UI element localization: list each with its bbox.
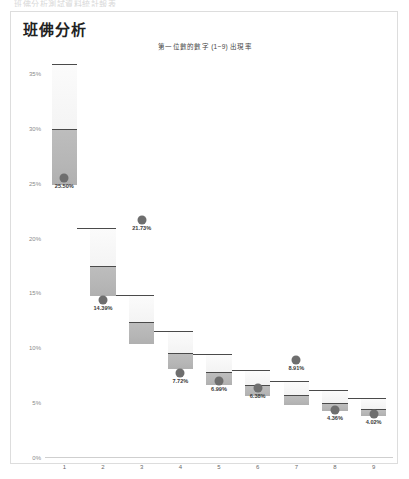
report-panel: 班佛分析 第一位數的數字 (1~9) 出現率 0%5%10%15%20%25%3… [10, 11, 398, 464]
y-axis-tick-label: 0% [32, 455, 41, 461]
expected-range-box [284, 381, 310, 404]
actual-value-label: 7.72% [172, 378, 188, 384]
chart-title: 第一位數的數字 (1~9) 出現率 [11, 41, 399, 51]
screenshot-root: 班佛分析測試資料統計報表 班佛分析 第一位數的數字 (1~9) 出現率 0%5%… [0, 0, 409, 479]
actual-value-dot[interactable] [253, 384, 262, 393]
actual-value-label: 25.50% [55, 183, 74, 189]
expected-range-inner-band [284, 395, 310, 405]
x-axis-tick-label: 9 [372, 464, 375, 470]
actual-value-dot[interactable] [176, 369, 185, 378]
actual-value-label: 14.39% [94, 305, 113, 311]
actual-value-dot[interactable] [99, 296, 108, 305]
x-axis-tick-label: 6 [256, 464, 259, 470]
range-connector-line [309, 390, 322, 391]
range-connector-line [193, 354, 206, 355]
actual-value-dot[interactable] [331, 406, 340, 415]
actual-value-dot[interactable] [215, 377, 224, 386]
actual-value-label: 8.91% [288, 365, 304, 371]
actual-value-dot[interactable] [369, 409, 378, 418]
expected-range-box [168, 331, 194, 368]
actual-value-label: 21.73% [132, 225, 151, 231]
x-axis-tick-label: 7 [295, 464, 298, 470]
x-axis-tick-label: 4 [179, 464, 182, 470]
range-connector-line [232, 370, 245, 371]
y-axis-tick-label: 25% [29, 181, 41, 187]
expected-range-inner-band [90, 266, 116, 296]
x-axis-tick-label: 8 [333, 464, 336, 470]
y-axis-tick-label: 15% [29, 290, 41, 296]
expected-range-inner-band [168, 353, 194, 369]
expected-range-box [52, 64, 78, 184]
y-axis-tick-label: 5% [32, 400, 41, 406]
x-axis-tick-label: 2 [101, 464, 104, 470]
y-axis-tick-label: 30% [29, 126, 41, 132]
x-axis-line [45, 457, 393, 458]
expected-range-box [129, 295, 155, 343]
actual-value-label: 6.38% [250, 393, 266, 399]
y-axis-tick-label: 35% [29, 71, 41, 77]
x-axis-tick-label: 3 [140, 464, 143, 470]
y-axis-tick-label: 10% [29, 345, 41, 351]
x-axis-tick-label: 5 [217, 464, 220, 470]
actual-value-label: 4.36% [327, 415, 343, 421]
x-axis-tick-label: 1 [63, 464, 66, 470]
benford-chart-plot: 0%5%10%15%20%25%30%35%12345678925.50%14.… [45, 74, 393, 458]
range-connector-line [116, 295, 129, 296]
expected-range-box [90, 228, 116, 295]
range-connector-line [270, 381, 283, 382]
actual-value-dot[interactable] [60, 174, 69, 183]
actual-value-label: 6.99% [211, 386, 227, 392]
clipped-header-text: 班佛分析測試資料統計報表 [14, 0, 116, 7]
y-axis-tick-label: 20% [29, 236, 41, 242]
range-connector-line [154, 331, 167, 332]
actual-value-dot[interactable] [292, 356, 301, 365]
actual-value-label: 4.02% [366, 419, 382, 425]
range-connector-line [77, 228, 90, 229]
actual-value-dot[interactable] [137, 215, 146, 224]
expected-range-inner-band [129, 322, 155, 344]
range-connector-line [348, 398, 361, 399]
page-title: 班佛分析 [23, 20, 87, 40]
